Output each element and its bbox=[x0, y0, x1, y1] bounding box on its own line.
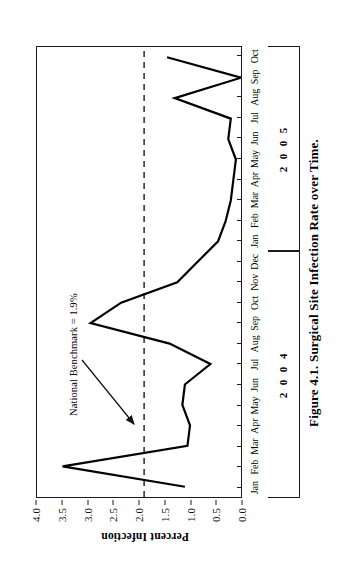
y-tick-label: 1.5 bbox=[159, 508, 171, 522]
x-tick-label-month: Aug bbox=[242, 87, 268, 108]
x-tick-mark bbox=[237, 117, 242, 118]
x-tick-label-month: Dec bbox=[242, 251, 268, 272]
benchmark-arrow-icon bbox=[78, 336, 158, 446]
x-tick-label-month: Jul bbox=[242, 354, 268, 375]
x-tick-label-month: Apr bbox=[242, 169, 268, 190]
x-tick-label-month: Feb bbox=[242, 210, 268, 231]
x-tick-mark bbox=[237, 363, 242, 364]
x-tick-mark bbox=[237, 425, 242, 426]
y-tick-label: 1.0 bbox=[185, 508, 197, 522]
y-tick-mark bbox=[61, 500, 62, 505]
x-tick-label-month: Aug bbox=[242, 334, 268, 355]
x-tick-mark bbox=[237, 322, 242, 323]
x-tick-label-month: May bbox=[242, 149, 268, 170]
y-axis-title: Percent Infection bbox=[42, 531, 248, 543]
x-axis: JanFebMarAprMayJunJulAugSepOctNovDecJanF… bbox=[242, 46, 300, 498]
y-tick-label: 3.0 bbox=[82, 508, 94, 522]
y-tick-mark bbox=[242, 500, 243, 505]
y-tick-mark bbox=[216, 500, 217, 505]
x-axis-year-group: 2 0 0 4 bbox=[268, 251, 300, 498]
x-tick-mark bbox=[237, 96, 242, 97]
y-tick-label: 4.0 bbox=[30, 508, 42, 522]
x-tick-mark bbox=[237, 240, 242, 241]
figure-surgical-site-infection-rate: 0.00.51.01.52.02.53.03.54.0 Percent Infe… bbox=[0, 0, 338, 566]
y-tick-mark bbox=[87, 500, 88, 505]
x-tick-mark bbox=[237, 405, 242, 406]
x-tick-label-month: Sep bbox=[242, 313, 268, 334]
y-tick-label: 0.0 bbox=[236, 508, 248, 522]
x-tick-mark bbox=[237, 137, 242, 138]
x-tick-label-month: Jun bbox=[242, 375, 268, 396]
y-tick-label: 2.0 bbox=[133, 508, 145, 522]
y-tick-label: 3.5 bbox=[56, 508, 68, 522]
y-tick-mark bbox=[164, 500, 165, 505]
y-tick-mark bbox=[190, 500, 191, 505]
x-tick-mark bbox=[237, 158, 242, 159]
x-tick-label-month: Sep bbox=[242, 67, 268, 88]
x-tick-mark bbox=[237, 55, 242, 56]
x-tick-label-month: Jun bbox=[242, 128, 268, 149]
x-tick-label-month: Jan bbox=[242, 231, 268, 252]
x-tick-mark bbox=[237, 281, 242, 282]
x-tick-label-month: Oct bbox=[242, 293, 268, 314]
x-axis-year-group: 2 0 0 5 bbox=[268, 46, 300, 251]
x-tick-mark bbox=[237, 179, 242, 180]
x-tick-label-month: Mar bbox=[242, 190, 268, 211]
figure-rotator: 0.00.51.01.52.02.53.03.54.0 Percent Infe… bbox=[0, 0, 338, 566]
x-tick-label-month: Jul bbox=[242, 108, 268, 129]
x-axis-year-label: 2 0 0 5 bbox=[277, 47, 289, 250]
x-tick-label-month: Nov bbox=[242, 272, 268, 293]
y-tick-label: 0.5 bbox=[210, 508, 222, 522]
x-tick-mark bbox=[237, 446, 242, 447]
x-axis-year-label: 2 0 0 4 bbox=[277, 252, 289, 497]
x-tick-mark bbox=[237, 261, 242, 262]
x-tick-label-month: Oct bbox=[242, 46, 268, 67]
x-tick-label-month: Mar bbox=[242, 436, 268, 457]
x-tick-mark bbox=[237, 343, 242, 344]
x-tick-label-month: May bbox=[242, 395, 268, 416]
x-tick-mark bbox=[237, 487, 242, 488]
x-tick-label-month: Apr bbox=[242, 416, 268, 437]
x-tick-mark bbox=[237, 76, 242, 77]
y-tick-mark bbox=[139, 500, 140, 505]
x-tick-mark bbox=[237, 199, 242, 200]
x-tick-label-month: Feb bbox=[242, 457, 268, 478]
x-tick-mark bbox=[237, 384, 242, 385]
x-tick-mark bbox=[237, 220, 242, 221]
x-tick-label-month: Jan bbox=[242, 477, 268, 498]
y-tick-mark bbox=[113, 500, 114, 505]
y-tick-mark bbox=[36, 500, 37, 505]
x-tick-mark bbox=[237, 302, 242, 303]
y-tick-label: 2.5 bbox=[107, 508, 119, 522]
x-tick-mark bbox=[237, 466, 242, 467]
figure-caption: Figure 4.1. Surgical Site Infection Rate… bbox=[306, 0, 322, 566]
